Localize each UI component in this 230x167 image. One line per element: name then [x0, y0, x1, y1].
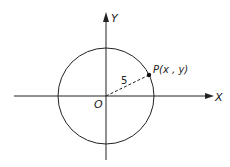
x-axis-label: X — [214, 91, 223, 104]
point-p — [147, 73, 151, 77]
y-axis-arrow-icon — [103, 12, 109, 22]
point-label: P(x , y) — [153, 64, 188, 75]
origin-label: O — [94, 98, 103, 111]
y-axis-label: Y — [111, 12, 119, 25]
diagram-canvas: Y X O 5 P(x , y) — [0, 0, 230, 167]
radius-label: 5 — [121, 75, 127, 86]
x-axis-arrow-icon — [205, 93, 214, 99]
radius-line — [106, 75, 149, 96]
